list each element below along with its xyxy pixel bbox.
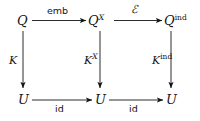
edge-label-k-x: KX — [84, 55, 98, 66]
edge-label-id-right: id — [129, 104, 138, 114]
node-q-x-base: Q — [88, 13, 99, 28]
node-u-middle-base: U — [95, 92, 106, 107]
node-u-right: U — [166, 93, 177, 106]
edge-label-k-ind: Kind — [152, 55, 172, 66]
node-q-x-superscript: X — [99, 13, 104, 22]
edge-label-k-x-superscript: X — [92, 52, 97, 61]
edge-label-k: K — [9, 55, 17, 66]
node-q-ind-base: Q — [164, 13, 175, 28]
edge-label-emb-text: emb — [47, 5, 68, 16]
edge-label-script-e: ℰ — [131, 4, 138, 15]
edge-label-id-left-text: id — [55, 103, 64, 114]
node-q-x: QX — [88, 14, 104, 27]
node-u-middle: U — [95, 93, 106, 106]
edge-label-id-right-text: id — [129, 103, 138, 114]
edge-label-k-ind-base: K — [152, 54, 160, 67]
node-q-ind-superscript: ind — [175, 13, 187, 22]
edge-label-emb: emb — [47, 6, 68, 16]
node-q: Q — [17, 14, 28, 27]
edge-label-k-base: K — [9, 54, 17, 67]
edge-label-script-e-text: ℰ — [131, 3, 138, 16]
commutative-diagram: Q QX Qind U U U emb ℰ K KX Kind id id — [0, 0, 200, 121]
node-u-right-base: U — [166, 92, 177, 107]
edge-label-id-left: id — [55, 104, 64, 114]
node-q-ind: Qind — [164, 14, 187, 27]
node-u-left: U — [18, 93, 29, 106]
node-u-left-base: U — [18, 92, 29, 107]
edge-label-k-x-base: K — [84, 54, 92, 67]
node-q-base: Q — [17, 13, 28, 28]
edge-label-k-ind-superscript: ind — [160, 52, 172, 61]
